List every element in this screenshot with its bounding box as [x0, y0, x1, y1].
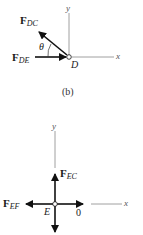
joint-e	[53, 202, 58, 207]
y-axis-label-b: y	[66, 4, 70, 13]
diagram-b	[35, 13, 114, 59]
diagram-e	[26, 131, 122, 232]
theta-label: θ	[39, 42, 44, 52]
x-axis-label-b: x	[116, 52, 120, 61]
y-axis-label-e: y	[52, 122, 56, 131]
force-fec-label: FEC	[60, 168, 77, 181]
point-e-label: E	[44, 207, 50, 217]
x-axis-label-e: x	[124, 199, 128, 208]
point-d-label: D	[71, 60, 78, 70]
caption-b: (b)	[62, 87, 74, 97]
zero-force-label: 0	[76, 208, 81, 218]
force-fef-label: FEF	[3, 198, 20, 211]
theta-arc	[48, 44, 51, 57]
force-fdc-label: FDC	[20, 15, 38, 28]
force-fde-label: FDE	[12, 52, 29, 65]
free-body-diagrams	[0, 0, 143, 235]
